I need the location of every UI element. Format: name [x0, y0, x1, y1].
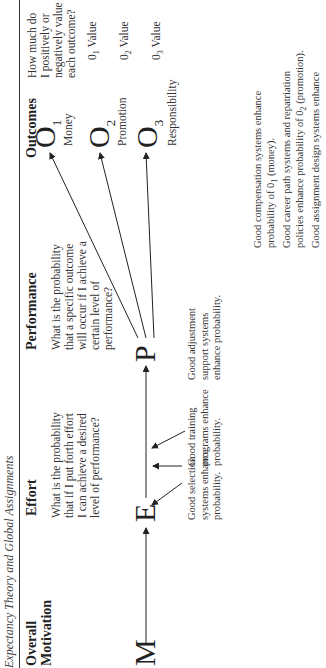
node-e: E [130, 504, 160, 522]
note-training: Good training programs enhance probabili… [186, 389, 224, 466]
outcome-responsibility: Responsibility [166, 80, 179, 146]
node-m: M [130, 639, 160, 666]
value-o2: 02 Value [118, 21, 135, 60]
note-outcome-systems: Good compensation systems enhance probab… [252, 0, 323, 248]
value-o1: 01 Value [86, 21, 103, 60]
outcome-promotion: Promotion [116, 97, 129, 146]
value-o3: 03 Value [150, 21, 167, 60]
outcome-money: Money [62, 113, 75, 146]
node-p: P [130, 345, 160, 362]
rotated-page: Expectancy Theory and Global Assignments… [0, 0, 326, 668]
note-adjustment: Good adjustment support systems enhance … [186, 295, 224, 380]
